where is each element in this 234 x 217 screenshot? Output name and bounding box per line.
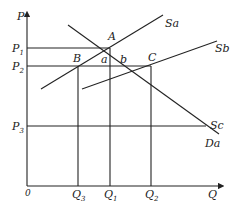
p1-label: P1 (11, 42, 24, 57)
point-b-label: B (72, 52, 81, 65)
sa-label: Sa (165, 17, 179, 30)
curve-da (68, 25, 219, 134)
da-label: Da (204, 137, 220, 150)
sc-label: Sc (210, 119, 224, 132)
region-a-label: a (101, 53, 108, 66)
origin-label: 0 (25, 188, 31, 198)
supply-demand-diagram: P Q 0 P1 P2 P3 Q3 Q1 Q2 Sa Sb Sc Da A B … (0, 0, 234, 217)
p2-label: P2 (11, 60, 24, 75)
x-axis-label: Q (208, 188, 217, 201)
point-a-label: A (107, 30, 116, 43)
q2-label: Q2 (145, 188, 159, 203)
point-c-label: C (148, 51, 157, 64)
p3-label: P3 (11, 120, 24, 135)
curve-sa (41, 15, 163, 89)
q3-label: Q3 (72, 188, 86, 203)
sb-label: Sb (215, 42, 230, 55)
y-axis-label: P (16, 10, 25, 23)
q1-label: Q1 (104, 188, 118, 203)
region-b-label: b (120, 53, 127, 66)
